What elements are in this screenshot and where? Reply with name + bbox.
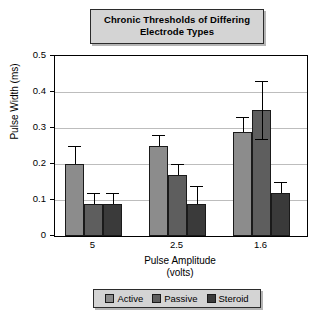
gridline — [55, 92, 307, 93]
bar-steroid-1-6 — [271, 193, 290, 236]
y-axis-tick-label: 0.3 — [33, 122, 46, 132]
error-bar-stem — [178, 164, 179, 175]
bar-passive-2-5 — [168, 175, 187, 236]
error-bar-cap-upper — [171, 164, 184, 165]
legend-swatch-steroid — [207, 294, 216, 303]
error-bar-stem — [262, 81, 263, 139]
bar-passive-5 — [84, 204, 103, 236]
error-bar-stem — [197, 186, 198, 204]
error-bar-cap-lower — [255, 139, 268, 140]
error-bar-cap-upper — [68, 146, 81, 147]
x-axis-tick-label: 5 — [90, 239, 95, 250]
y-axis-tick-label: 0 — [41, 230, 46, 240]
error-bar-cap-upper — [152, 135, 165, 136]
bar-steroid-2-5 — [187, 204, 206, 236]
error-bar-cap-upper — [236, 117, 249, 118]
error-bar-cap-upper — [274, 182, 287, 183]
y-axis-tick-label: 0.1 — [33, 194, 46, 204]
error-bar-stem — [94, 193, 95, 204]
bar-active-5 — [65, 164, 84, 236]
error-bar-stem — [113, 193, 114, 204]
bar-active-2-5 — [149, 146, 168, 236]
legend-item-active: Active — [105, 293, 143, 304]
x-axis-title-main: Pulse Amplitude — [54, 255, 306, 267]
y-axis-tick-label: 0.2 — [33, 158, 46, 168]
x-axis-title: Pulse Amplitude (volts) — [54, 255, 306, 279]
bar-active-1-6 — [233, 132, 252, 236]
legend-label: Passive — [164, 293, 197, 304]
legend-label: Steroid — [219, 293, 249, 304]
error-bar-cap-upper — [190, 186, 203, 187]
x-axis-title-units: (volts) — [54, 267, 306, 279]
chart-canvas: Pulse Width (ms) 00.10.20.30.40.5 52.51.… — [0, 0, 326, 322]
legend-item-passive: Passive — [152, 293, 197, 304]
plot-area — [54, 55, 308, 237]
error-bar-cap-upper — [106, 193, 119, 194]
legend-item-steroid: Steroid — [207, 293, 249, 304]
legend-swatch-passive — [152, 294, 161, 303]
error-bar-stem — [281, 182, 282, 193]
chart-legend: ActivePassiveSteroid — [93, 289, 261, 308]
legend-label: Active — [117, 293, 143, 304]
error-bar-stem — [243, 117, 244, 131]
error-bar-cap-upper — [255, 81, 268, 82]
y-axis-tick-labels: 00.10.20.30.40.5 — [14, 55, 50, 235]
bar-steroid-5 — [103, 204, 122, 236]
error-bar-stem — [159, 135, 160, 146]
y-axis-tick-label: 0.5 — [33, 50, 46, 60]
x-axis-tick-labels: 52.51.6 — [54, 239, 306, 253]
legend-swatch-active — [105, 294, 114, 303]
x-axis-tick-label: 2.5 — [170, 239, 183, 250]
error-bar-cap-upper — [87, 193, 100, 194]
x-axis-tick-label: 1.6 — [254, 239, 267, 250]
error-bar-stem — [75, 146, 76, 164]
y-axis-tick-label: 0.4 — [33, 86, 46, 96]
